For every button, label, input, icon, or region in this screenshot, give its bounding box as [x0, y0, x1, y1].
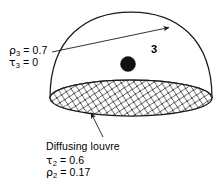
label-zone-3: 3 [151, 43, 157, 55]
lamp-source-dot [121, 57, 136, 72]
tau2-equals: = [60, 154, 66, 166]
diffusing-louvre-disc [50, 80, 212, 116]
louvre-leader-line [91, 113, 103, 137]
tau3-value: 0 [32, 56, 38, 68]
label-rho2: ρ2 = 0.17 [46, 166, 90, 182]
tau3-symbol: τ [9, 56, 16, 69]
tau3-equals: = [23, 56, 29, 68]
rho3-equals: = [23, 44, 29, 56]
tau3-subscript: 3 [16, 61, 20, 70]
label-diffusing-louvre: Diffusing louvre [46, 140, 120, 152]
diagram-canvas [0, 0, 222, 186]
label-tau3: τ3 = 0 [9, 56, 38, 72]
rho2-equals: = [60, 166, 66, 178]
rho2-subscript: 2 [53, 171, 57, 180]
rho3-value: 0.7 [33, 44, 48, 56]
tau2-value: 0.6 [69, 154, 84, 166]
diagram-figure: ρ3 = 0.7 τ3 = 0 3 Diffusing louvre τ2 = … [0, 0, 222, 186]
rho2-value: 0.17 [70, 166, 91, 178]
